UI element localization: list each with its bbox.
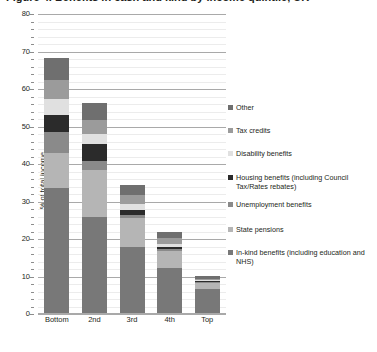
stacked-bar-chart: Figure 4. Benefits in cash and kind by i… (0, 0, 377, 352)
bar-segment (120, 204, 145, 210)
bar-segment (157, 238, 182, 243)
legend-swatch-icon (228, 128, 233, 133)
y-tick-mark (31, 209, 34, 210)
y-tick-mark (31, 112, 34, 113)
y-tick-label: 30 (0, 198, 30, 206)
bar-segment (44, 188, 69, 314)
bar-segment (120, 185, 145, 195)
legend-item[interactable]: State pensions (228, 226, 374, 235)
bar-segment (157, 232, 182, 239)
y-tick-mark (31, 292, 34, 293)
y-tick-label: 10 (0, 273, 30, 281)
y-tick-mark (31, 179, 34, 180)
y-tick-mark (31, 97, 34, 98)
legend-swatch-icon (228, 227, 233, 232)
y-tick-label: 70 (0, 48, 30, 56)
legend-item[interactable]: Tax credits (228, 127, 374, 136)
y-tick-label: 40 (0, 160, 30, 168)
bar-segment (120, 195, 145, 204)
bar-segment (195, 283, 220, 289)
x-tick-label-top: Top (184, 316, 230, 324)
bar-segment (195, 281, 220, 282)
bar-segment (82, 134, 107, 145)
y-tick-mark (31, 232, 34, 233)
y-tick-mark (31, 104, 34, 105)
bar-segment (44, 153, 69, 189)
bar-segment (82, 161, 107, 170)
y-tick-mark (29, 89, 34, 90)
y-tick-mark (29, 127, 34, 128)
bar-segment (195, 282, 220, 283)
bar-segment (157, 249, 182, 251)
y-tick-mark (31, 224, 34, 225)
bar-top (195, 276, 220, 314)
y-tick-mark (31, 269, 34, 270)
bar-segment (82, 120, 107, 134)
y-tick-mark (31, 74, 34, 75)
y-tick-label: 50 (0, 123, 30, 131)
bar-segment (120, 210, 145, 215)
legend-item[interactable]: In-kind benefits (including education an… (228, 249, 374, 266)
bar-segment (195, 289, 220, 314)
y-tick-mark (29, 164, 34, 165)
y-tick-mark (31, 262, 34, 263)
bar-segment (157, 251, 182, 268)
legend-label: Housing benefits (including Council Tax/… (236, 174, 374, 191)
bar-group (38, 14, 226, 314)
y-tick-mark (29, 314, 34, 315)
chart-title: Figure 4. Benefits in cash and kind by i… (6, 0, 309, 3)
legend-label: In-kind benefits (including education an… (236, 249, 374, 266)
y-tick-mark (31, 22, 34, 23)
y-tick-mark (31, 44, 34, 45)
y-tick-mark (29, 277, 34, 278)
y-tick-mark (31, 142, 34, 143)
y-tick-mark (29, 202, 34, 203)
legend-swatch-icon (228, 250, 233, 255)
y-tick-mark (29, 239, 34, 240)
y-tick-mark (31, 299, 34, 300)
bar-segment (44, 115, 69, 132)
y-tick-mark (31, 119, 34, 120)
bar-3rd (120, 185, 145, 314)
bar-segment (44, 80, 69, 99)
y-tick-mark (31, 254, 34, 255)
bar-segment (82, 170, 107, 217)
y-tick-mark (31, 307, 34, 308)
y-tick-mark (29, 14, 34, 15)
legend-swatch-icon (228, 202, 233, 207)
legend-item[interactable]: Other (228, 104, 374, 113)
bar-bottom (44, 58, 69, 314)
bar-2nd (82, 103, 107, 314)
legend-label: State pensions (236, 226, 284, 235)
y-tick-mark (31, 29, 34, 30)
bar-segment (157, 247, 182, 249)
legend-item[interactable]: Housing benefits (including Council Tax/… (228, 174, 374, 191)
bar-segment (157, 244, 182, 247)
legend-item[interactable]: Disability benefits (228, 150, 374, 159)
bar-segment (157, 268, 182, 314)
bar-segment (82, 144, 107, 161)
bar-segment (120, 218, 145, 247)
bar-4th (157, 232, 182, 315)
bar-segment (82, 103, 107, 120)
y-tick-mark (31, 194, 34, 195)
y-tick-mark (31, 37, 34, 38)
y-axis-labels: 01020304050607080 (0, 14, 34, 314)
y-tick-mark (31, 67, 34, 68)
y-tick-mark (31, 247, 34, 248)
legend-item[interactable]: Unemployment benefits (228, 201, 374, 210)
legend-swatch-icon (228, 151, 233, 156)
y-tick-mark (31, 149, 34, 150)
bar-segment (195, 279, 220, 281)
chart-title-cropped: Figure 4. Benefits in cash and kind by i… (0, 0, 377, 9)
legend-label: Tax credits (236, 127, 270, 136)
y-tick-label: 0 (0, 310, 30, 318)
legend-label: Disability benefits (236, 150, 292, 159)
bar-segment (195, 280, 220, 281)
y-tick-mark (31, 187, 34, 188)
plot-area (38, 14, 226, 314)
y-tick-mark (31, 217, 34, 218)
legend-label: Other (236, 104, 254, 113)
bar-segment (44, 132, 69, 153)
bar-segment (44, 99, 69, 115)
